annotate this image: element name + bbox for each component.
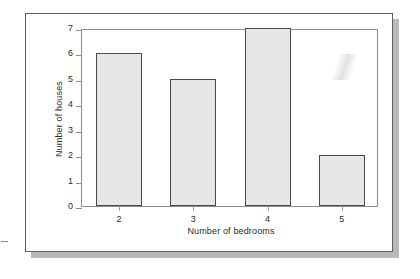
x-axis-tick-label: 4 [248,214,288,224]
y-axis-tick-mark [76,30,82,31]
page-edge-artifact [1,241,8,242]
x-axis-tick-label: 2 [99,214,139,224]
x-axis-title: Number of bedrooms [81,226,381,236]
bar-chart: Number of houses Number of bedrooms 0123… [25,13,393,252]
x-axis-tick-mark [119,206,120,211]
y-axis-title: Number of houses [54,64,64,174]
x-axis-tick-mark [268,206,269,211]
y-axis-tick-mark [76,157,82,158]
y-axis-tick-label: 4 [68,99,73,109]
bar [96,53,142,206]
y-axis-tick-label: 7 [68,23,73,33]
x-axis-tick-label: 3 [173,214,213,224]
plot-area: 012345672345 [81,29,378,207]
y-axis-tick-label: 2 [68,150,73,160]
y-axis-tick-label: 5 [68,74,73,84]
figure-screenshot: Number of houses Number of bedrooms 0123… [0,0,420,279]
y-axis-tick-mark [76,132,82,133]
y-axis-tick-label: 0 [68,201,73,211]
y-axis-tick-mark [76,208,82,209]
x-axis-tick-mark [193,206,194,211]
bar [319,155,365,206]
y-axis-tick-label: 3 [68,125,73,135]
bar [170,79,216,206]
x-axis-tick-mark [342,206,343,211]
y-axis-tick-label: 1 [68,176,73,186]
y-axis-tick-mark [76,81,82,82]
y-axis-tick-mark [76,55,82,56]
y-axis-tick-mark [76,106,82,107]
y-axis-tick-label: 6 [68,48,73,58]
y-axis-tick-mark [76,183,82,184]
x-axis-tick-label: 5 [322,214,362,224]
bar [245,28,291,206]
